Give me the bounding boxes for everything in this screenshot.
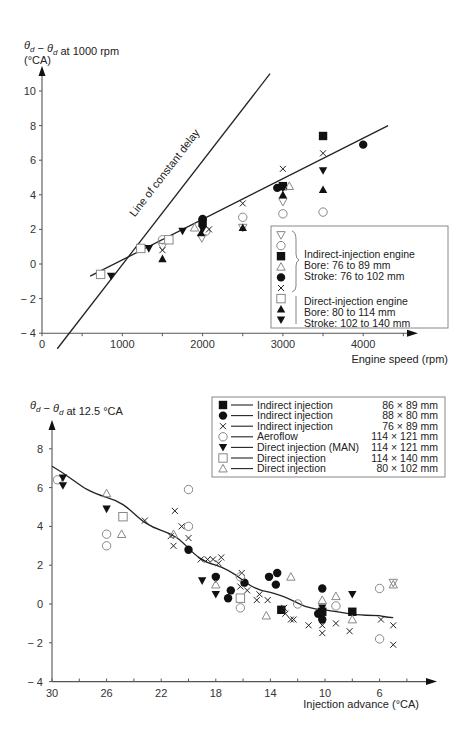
c2-point-circle-filled xyxy=(227,586,235,594)
c1-xtick-label: 2000 xyxy=(190,338,214,350)
c1-legend-group-line: Stroke: 76 to 102 mm xyxy=(304,270,405,282)
c1-point-circle-open xyxy=(239,213,247,221)
chart-injection-advance: θd − θd at 12.5 °CA Injection advance (°… xyxy=(27,397,445,710)
c1-xlabel: Engine speed (rpm) xyxy=(351,353,448,365)
c1-x-arrow xyxy=(407,330,418,337)
c2-point-tri-down-filled xyxy=(59,475,67,483)
c2-point-circle-filled xyxy=(265,573,273,581)
c2-point-cross xyxy=(244,587,250,593)
c1-point-circle-open xyxy=(319,208,327,216)
c1-point-tri-down-filled xyxy=(107,273,115,281)
c1-ytick-label: 4 xyxy=(30,189,36,201)
c2-point-circle-open xyxy=(332,602,340,610)
c1-point-tri-up-filled xyxy=(319,185,327,193)
c2-point-tri-down-filled xyxy=(348,591,356,599)
c2-point-tri-up-open xyxy=(318,596,326,604)
c2-point-cross xyxy=(378,617,384,623)
c2-legend-marker-square-filled xyxy=(219,401,227,409)
c1-legend-marker-square-filled xyxy=(277,252,285,260)
c2-legend-label: Direct injection xyxy=(257,462,326,474)
c1-point-square-open xyxy=(165,236,173,244)
c1-ytick-label: − 2 xyxy=(20,293,36,305)
c2-point-cross xyxy=(347,628,353,634)
c2-ylabel: θd − θd at 12.5 °CA xyxy=(30,399,123,417)
c2-point-cross xyxy=(390,642,396,648)
c2-ytick-label: 8 xyxy=(37,443,43,455)
c2-point-cross xyxy=(319,630,325,636)
c2-point-tri-up-open xyxy=(117,530,125,538)
c2-legend-marker-square-open xyxy=(219,454,227,462)
c2-point-cross xyxy=(390,622,396,628)
c2-point-cross xyxy=(179,523,185,529)
c2-lines xyxy=(52,466,393,617)
c2-point-circle-open xyxy=(184,485,192,493)
c2-point-cross xyxy=(218,554,224,560)
c2-point-tri-up-open xyxy=(332,592,340,600)
c2-point-cross xyxy=(254,597,260,603)
c2-point-cross xyxy=(237,584,243,590)
c2-point-tri-up-open xyxy=(287,573,295,581)
c2-point-circle-filled xyxy=(318,584,326,592)
c2-point-square-open xyxy=(236,594,244,602)
c2-xtick-label: 22 xyxy=(155,687,167,699)
c1-point-square-open xyxy=(137,244,145,252)
c2-ytick-label: − 2 xyxy=(27,637,43,649)
figure: θd − θd at 1000 rpm (°CA) Engine speed (… xyxy=(0,0,459,748)
c1-ytick-label: 8 xyxy=(30,120,36,132)
c1-point-circle-filled xyxy=(198,215,206,223)
c1-point-cross xyxy=(159,247,165,253)
c1-point-square-filled xyxy=(319,132,327,140)
c1-point-cross xyxy=(320,150,326,156)
c2-points xyxy=(53,475,397,648)
c2-legend: Indirect injection86 × 89 mmIndirect inj… xyxy=(212,397,445,477)
c1-point-tri-down-filled xyxy=(145,245,153,253)
c2-point-circle-filled xyxy=(184,545,192,553)
c2-point-cross xyxy=(265,597,271,603)
c2-point-square-open xyxy=(119,513,127,521)
c1-y-arrow xyxy=(39,66,46,76)
c1-ylabel-unit: (°CA) xyxy=(24,54,51,66)
c2-point-tri-down-filled xyxy=(102,506,110,514)
c2-point-circle-filled xyxy=(272,580,280,588)
c2-point-tri-down-filled xyxy=(212,591,220,599)
c2-point-cross xyxy=(170,543,176,549)
c2-ytick-label: − 4 xyxy=(27,676,43,688)
c2-y-arrow xyxy=(49,420,56,430)
c2-point-tri-down-filled xyxy=(59,482,67,490)
c1-xtick-label: 0 xyxy=(39,338,45,350)
c2-point-cross xyxy=(306,622,312,628)
c2-x-arrow xyxy=(426,678,437,685)
c1-point-circle-filled xyxy=(359,140,367,148)
c2-xtick-label: 6 xyxy=(377,687,383,699)
c2-point-tri-up-open xyxy=(102,489,110,497)
c2-ytick-label: 6 xyxy=(37,482,43,494)
c2-point-cross xyxy=(210,556,216,562)
c2-point-cross xyxy=(186,535,192,541)
c1-ytick-label: 6 xyxy=(30,154,36,166)
c1-point-tri-up-filled xyxy=(158,255,166,263)
c1-point-tri-down-filled xyxy=(319,167,327,175)
c2-xtick-label: 10 xyxy=(319,687,331,699)
chart-engine-speed: θd − θd at 1000 rpm (°CA) Engine speed (… xyxy=(20,39,448,365)
c1-legend-group-line: Stroke: 102 to 140 mm xyxy=(304,317,410,329)
c2-point-tri-down-filled xyxy=(198,577,206,585)
c2-point-cross xyxy=(205,556,211,562)
c2-point-circle-open xyxy=(102,542,110,550)
c1-legend-marker-square-open xyxy=(277,294,285,302)
constant-delay-line xyxy=(57,74,270,349)
c2-fit-curve xyxy=(52,466,393,617)
c1-ytick-label: 10 xyxy=(24,85,36,97)
c2-xlabel: Injection advance (°CA) xyxy=(303,698,419,710)
c2-legend-size: 80 × 102 mm xyxy=(376,462,438,474)
c1-legend: Indirect-injection engineBore: 76 to 89 … xyxy=(271,226,448,329)
c2-ytick-label: 2 xyxy=(37,559,43,571)
c2-point-circle-open xyxy=(375,635,383,643)
c2-point-circle-filled xyxy=(314,610,322,618)
c2-point-cross xyxy=(172,508,178,514)
c1-ytick-label: 0 xyxy=(30,258,36,270)
c2-xtick-label: 26 xyxy=(100,687,112,699)
c2-xtick-label: 14 xyxy=(264,687,276,699)
c1-point-tri-down-open xyxy=(279,198,287,206)
c2-point-cross xyxy=(216,560,222,566)
c1-xtick-label: 1000 xyxy=(110,338,134,350)
